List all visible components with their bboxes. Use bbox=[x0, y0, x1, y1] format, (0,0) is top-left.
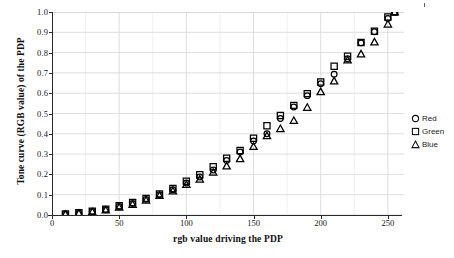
y-tick-label: 0.6 bbox=[37, 93, 48, 103]
x-axis-title: rgb value driving the PDP bbox=[52, 234, 404, 244]
x-tick-label: 200 bbox=[314, 218, 327, 228]
x-tick-label: 250 bbox=[382, 218, 395, 228]
legend-item-blue: Blue bbox=[411, 138, 444, 151]
legend-label: Blue bbox=[422, 140, 438, 149]
square-marker-icon bbox=[411, 127, 420, 136]
x-tick-label: 0 bbox=[50, 218, 54, 228]
legend: RedGreenBlue bbox=[411, 112, 444, 151]
legend-item-green: Green bbox=[411, 125, 444, 138]
legend-item-red: Red bbox=[411, 112, 444, 125]
triangle-marker-icon bbox=[411, 140, 420, 149]
figure-container: 0.00.10.20.30.40.50.60.70.80.91.0 050100… bbox=[0, 0, 454, 258]
data-markers bbox=[52, 12, 404, 215]
y-tick-label: 0.5 bbox=[37, 114, 48, 124]
y-tick-label: 0.0 bbox=[37, 215, 48, 225]
y-tick-label: 1.0 bbox=[37, 12, 48, 22]
y-tick-label: 0.3 bbox=[37, 154, 48, 164]
plot-area bbox=[52, 12, 404, 215]
y-tick-label: 0.4 bbox=[37, 134, 48, 144]
y-tick-label: 0.1 bbox=[37, 195, 48, 205]
y-axis-title: Tone curve (RGB value) of the PDP bbox=[16, 6, 26, 216]
x-tick-label: 50 bbox=[115, 218, 124, 228]
y-tick-label: 0.8 bbox=[37, 53, 48, 63]
circle-marker-icon bbox=[411, 114, 420, 123]
legend-label: Red bbox=[422, 114, 437, 123]
y-tick-label: 0.9 bbox=[37, 32, 48, 42]
legend-label: Green bbox=[422, 127, 444, 136]
x-tick-label: 100 bbox=[180, 218, 193, 228]
y-tick-label: 0.7 bbox=[37, 73, 48, 83]
x-tick-label: 150 bbox=[247, 218, 260, 228]
scan-artifact bbox=[424, 3, 425, 7]
y-tick-label: 0.2 bbox=[37, 174, 48, 184]
